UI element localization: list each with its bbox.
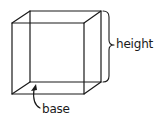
front-face — [12, 23, 84, 94]
height-brace-icon — [103, 11, 114, 82]
prism-diagram: height base — [0, 0, 160, 121]
back-face — [30, 11, 101, 82]
base-arrowhead-icon — [31, 84, 37, 91]
edge-bottom-right — [84, 82, 101, 94]
base-label: base — [42, 103, 70, 115]
cube-drawing — [0, 0, 160, 121]
height-label: height — [116, 38, 153, 50]
edge-bottom-left — [12, 82, 30, 94]
edge-top-left — [12, 11, 30, 23]
base-arrow-icon — [34, 89, 40, 108]
edge-top-right — [84, 11, 101, 23]
